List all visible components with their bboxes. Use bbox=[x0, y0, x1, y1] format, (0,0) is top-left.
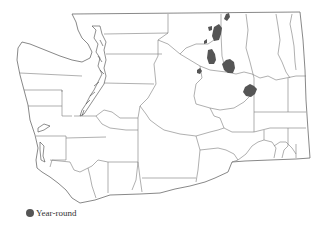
shaded-area bbox=[212, 24, 222, 41]
grays-harbor bbox=[38, 124, 50, 132]
shaded-area bbox=[224, 13, 230, 21]
county-boundaries bbox=[20, 14, 306, 198]
shaded-area bbox=[243, 84, 257, 97]
shaded-area bbox=[208, 26, 212, 31]
shaded-area bbox=[207, 49, 216, 64]
state-outline bbox=[17, 12, 310, 203]
willapa-bay bbox=[40, 142, 45, 162]
legend: Year-round bbox=[26, 208, 76, 218]
year-round-swatch-icon bbox=[26, 209, 34, 217]
washington-county-map bbox=[0, 0, 324, 229]
shaded-area bbox=[222, 59, 235, 73]
legend-label-year-round: Year-round bbox=[36, 208, 76, 218]
shaded-area bbox=[204, 39, 207, 44]
